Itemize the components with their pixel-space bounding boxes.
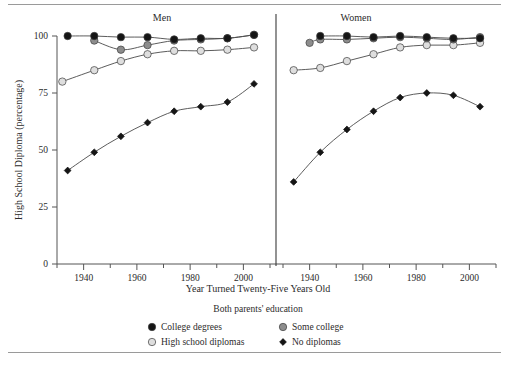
y-tick-label: 100: [34, 31, 49, 41]
legend-label-high-school-diplomas: High school diplomas: [161, 337, 245, 347]
data-point-no-diplomas: [423, 90, 430, 97]
data-point-high-school-diplomas: [343, 57, 350, 64]
data-point-high-school-diplomas: [317, 64, 324, 71]
x-tick-label: 2000: [234, 273, 253, 283]
legend-label-college-degrees: College degrees: [161, 322, 222, 332]
data-point-some-college: [306, 39, 313, 46]
legend-title: Both parents' education: [213, 304, 303, 314]
legend-label-no-diplomas: No diplomas: [292, 337, 341, 347]
gray-circle-icon: [279, 323, 286, 330]
plot-area-women: [290, 32, 484, 185]
data-point-high-school-diplomas: [144, 51, 151, 58]
data-point-no-diplomas: [118, 133, 125, 140]
data-point-high-school-diplomas: [224, 46, 231, 53]
data-point-high-school-diplomas: [117, 57, 124, 64]
data-point-college-degrees: [144, 33, 151, 40]
data-point-college-degrees: [170, 36, 177, 43]
data-point-high-school-diplomas: [370, 51, 377, 58]
data-point-no-diplomas: [224, 99, 231, 106]
x-axis-label: Year Turned Twenty-Five Years Old: [186, 283, 331, 294]
x-tick-label: 2000: [460, 273, 479, 283]
panel-title-women: Women: [341, 12, 372, 23]
data-point-no-diplomas: [197, 103, 204, 110]
x-tick-label: 1940: [74, 273, 93, 283]
data-point-college-degrees: [197, 35, 204, 42]
legend-group: College degreesSome collegeHigh school d…: [148, 322, 343, 347]
light-circle-icon: [148, 338, 155, 345]
data-point-no-diplomas: [171, 108, 178, 115]
plot-area-men: [59, 31, 258, 174]
y-tick-label: 25: [39, 202, 49, 212]
data-point-no-diplomas: [144, 119, 151, 126]
data-point-college-degrees: [117, 33, 124, 40]
y-axis-label: High School Diploma (percentage): [13, 80, 25, 220]
data-point-no-diplomas: [91, 149, 98, 156]
data-point-college-degrees: [423, 33, 430, 40]
panel-title-men: Men: [153, 12, 171, 23]
data-point-no-diplomas: [450, 92, 457, 99]
data-point-college-degrees: [396, 32, 403, 39]
data-point-college-degrees: [91, 32, 98, 39]
y-tick-label: 0: [43, 259, 48, 269]
data-point-no-diplomas: [397, 94, 404, 101]
data-point-college-degrees: [250, 31, 257, 38]
data-point-high-school-diplomas: [91, 67, 98, 74]
data-point-high-school-diplomas: [290, 67, 297, 74]
data-point-no-diplomas: [251, 80, 258, 87]
filled-circle-icon: [148, 323, 155, 330]
x-tick-group: 19401960198020001940196019802000: [57, 264, 496, 283]
filled-diamond-icon: [280, 339, 287, 346]
data-point-college-degrees: [224, 35, 231, 42]
data-point-no-diplomas: [64, 167, 71, 174]
x-tick-label: 1940: [300, 273, 319, 283]
data-point-college-degrees: [64, 32, 71, 39]
data-point-high-school-diplomas: [396, 44, 403, 51]
y-tick-group: 0255075100: [34, 31, 57, 269]
data-point-some-college: [117, 46, 124, 53]
data-point-college-degrees: [343, 32, 350, 39]
x-tick-label: 1980: [407, 273, 426, 283]
data-point-high-school-diplomas: [170, 47, 177, 54]
data-point-high-school-diplomas: [197, 47, 204, 54]
chart-svg: Men Women High School Diploma (percentag…: [0, 0, 509, 367]
data-point-no-diplomas: [477, 103, 484, 110]
series-line-no-diplomas: [68, 84, 254, 171]
legend-label-some-college: Some college: [292, 322, 343, 332]
data-point-college-degrees: [370, 33, 377, 40]
x-tick-label: 1960: [353, 273, 372, 283]
data-point-college-degrees: [476, 35, 483, 42]
x-tick-label: 1960: [127, 273, 146, 283]
data-point-high-school-diplomas: [250, 44, 257, 51]
x-tick-label: 1980: [181, 273, 200, 283]
data-point-college-degrees: [317, 32, 324, 39]
y-tick-label: 50: [39, 145, 49, 155]
y-tick-label: 75: [39, 88, 49, 98]
data-point-some-college: [144, 41, 151, 48]
data-point-high-school-diplomas: [59, 78, 66, 85]
figure-container: Men Women High School Diploma (percentag…: [0, 0, 509, 367]
data-point-high-school-diplomas: [423, 41, 430, 48]
series-line-no-diplomas: [294, 93, 480, 182]
data-point-no-diplomas: [370, 108, 377, 115]
data-point-college-degrees: [450, 35, 457, 42]
